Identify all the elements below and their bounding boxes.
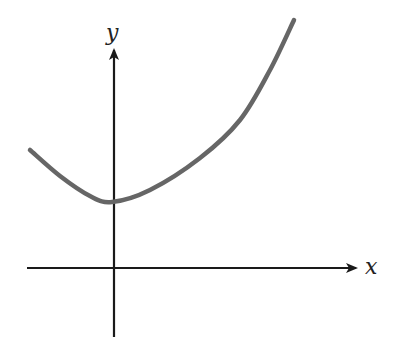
- function-curve: [30, 20, 294, 202]
- function-plot: x y: [0, 0, 398, 353]
- y-axis-label: y: [105, 20, 119, 45]
- x-axis-label: x: [365, 254, 378, 279]
